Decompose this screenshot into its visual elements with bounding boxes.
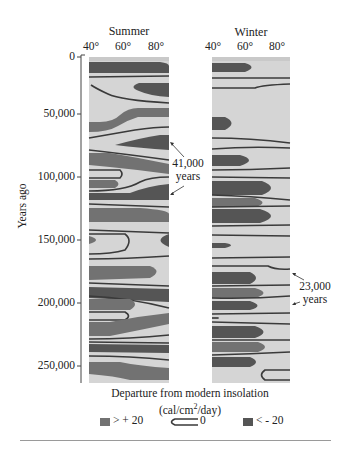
annotation-23000-line1: 23,000	[290, 280, 340, 293]
insolation-diagram	[0, 0, 351, 449]
legend-cold-label: < - 20	[256, 414, 284, 426]
winter-tick-strip	[212, 57, 290, 61]
legend-zero-label: 0	[200, 414, 206, 426]
summer-contour	[89, 342, 169, 343]
summer-band	[89, 299, 135, 310]
footer-rule	[20, 440, 331, 441]
winter-band	[212, 301, 258, 310]
winter-contour	[212, 177, 290, 178]
winter-contour	[212, 285, 290, 286]
winter-band	[212, 288, 264, 298]
winter-band	[212, 209, 271, 223]
legend-cold-swatch	[243, 418, 253, 426]
summer-panel	[89, 57, 169, 383]
summer-contour	[89, 76, 169, 77]
legend-warm-label: > + 20	[113, 414, 143, 426]
winter-band	[212, 326, 264, 338]
winter-panel	[212, 57, 290, 383]
y-axis-ticks	[77, 57, 81, 366]
annotation-41000-line2: years	[166, 170, 210, 183]
legend-zero-contour-icon	[172, 419, 199, 425]
winter-contour	[212, 235, 290, 236]
winter-band	[212, 357, 256, 367]
annotation-23000-line2: years	[290, 293, 340, 306]
summer-band	[89, 208, 169, 222]
winter-band	[212, 272, 256, 284]
winter-contour	[212, 313, 290, 314]
winter-band	[212, 155, 249, 166]
annotation-41000-years: 41,000 years	[166, 157, 210, 183]
x-axis-unit-pre: (cal/cm	[159, 404, 193, 416]
summer-tick-strip	[89, 57, 169, 61]
annotation-23000-years: 23,000 years	[290, 280, 340, 306]
winter-contour	[212, 257, 290, 258]
x-axis-label-line1: Departure from modern insolation	[70, 386, 310, 400]
winter-contour	[212, 206, 290, 207]
legend-warm-swatch	[100, 418, 110, 426]
winter-band	[212, 63, 252, 72]
x-axis-label: Departure from modern insolation (cal/cm…	[70, 386, 310, 417]
summer-band	[89, 344, 169, 353]
summer-band	[89, 62, 169, 73]
winter-band	[212, 181, 271, 195]
summer-band	[89, 266, 157, 280]
winter-contour	[212, 225, 290, 226]
arrow-41k-upper	[171, 143, 184, 157]
annotation-41000-line1: 41,000	[166, 157, 210, 170]
summer-band	[89, 180, 119, 188]
winter-band	[212, 342, 265, 352]
winter-band	[212, 317, 219, 319]
